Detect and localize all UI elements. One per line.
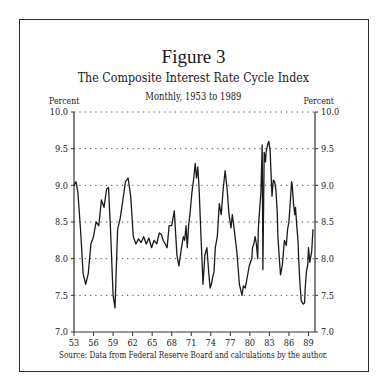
y-tick-label-right: 8.5 — [321, 217, 334, 228]
index-series-line — [74, 141, 313, 307]
x-tick-label: 77 — [225, 337, 236, 348]
y-tick-label-left: 10.0 — [50, 107, 68, 118]
x-tick-label: 89 — [303, 337, 314, 348]
y-tick-label-left: 9.0 — [55, 180, 68, 191]
gridlines — [74, 112, 315, 295]
x-tick-label: 59 — [108, 337, 119, 348]
y-tick-label-right: 9.5 — [321, 143, 334, 154]
y-tick-label-left: 8.5 — [55, 217, 68, 228]
x-tick-label: 86 — [284, 337, 295, 348]
y-tick-label-left: 7.0 — [55, 327, 68, 338]
y-tick-label-right: 9.0 — [321, 180, 334, 191]
y-tick-label-right: 7.5 — [321, 290, 334, 301]
y-tick-label-right: 7.0 — [321, 327, 334, 338]
x-tick-label: 56 — [88, 337, 99, 348]
x-tick-label: 80 — [245, 337, 256, 348]
x-axis-ticks: 53565962656871747780838689 — [69, 332, 314, 348]
y-tick-label-right: 10.0 — [321, 107, 339, 118]
line-chart: 7.07.07.57.58.08.08.58.59.09.09.59.510.0… — [0, 0, 387, 389]
x-tick-label: 74 — [206, 337, 217, 348]
y-tick-label-left: 8.0 — [55, 253, 68, 264]
x-tick-label: 53 — [69, 337, 80, 348]
x-tick-label: 65 — [147, 337, 158, 348]
y-tick-label-left: 9.5 — [55, 143, 68, 154]
x-tick-label: 83 — [264, 337, 275, 348]
y-tick-label-left: 7.5 — [55, 290, 68, 301]
x-tick-label: 68 — [166, 337, 177, 348]
x-tick-label: 62 — [127, 337, 137, 348]
x-tick-label: 71 — [186, 337, 196, 348]
y-tick-label-right: 8.0 — [321, 253, 334, 264]
